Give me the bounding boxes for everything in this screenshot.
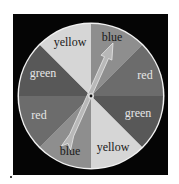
section-label: red <box>137 68 152 82</box>
section-label: green <box>30 66 57 80</box>
section-label: blue <box>102 30 123 44</box>
section-label: yellow <box>97 140 130 154</box>
spinner: blueredgreenyellowblueredgreenyellow <box>0 0 179 184</box>
section-label: green <box>125 106 152 120</box>
stray-mark <box>10 176 12 178</box>
section-label: yellow <box>54 35 87 49</box>
pivot-dot-icon <box>88 93 94 99</box>
section-label: red <box>31 108 46 122</box>
